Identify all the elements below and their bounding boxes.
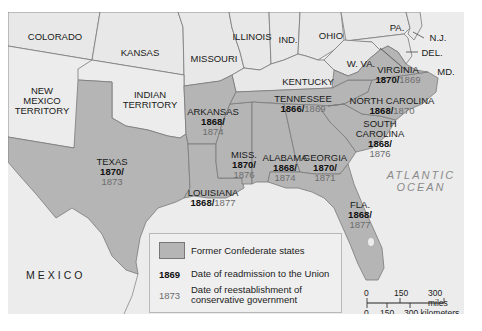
label-new-mexico-territory: NEW MEXICO TERRITORY: [15, 86, 70, 116]
label-north-carolina: NORTH CAROLINA 1868/1870: [350, 96, 435, 116]
label-kansas: KANSAS: [121, 48, 160, 58]
label-west-virginia: W. VA.: [347, 59, 375, 69]
scale-km-300: 300 kilometers: [404, 308, 459, 314]
legend-restoration-key: 1873: [159, 290, 180, 301]
legend-restoration-label: Date of reestablishment of conservative …: [191, 285, 302, 305]
rio-grande-border: [124, 274, 138, 314]
scale-miles-0: 0: [364, 288, 369, 298]
label-atlantic-ocean: ATLANTIC OCEAN: [387, 169, 455, 193]
label-maryland: MD.: [437, 67, 454, 77]
scale-km-0: 0: [364, 308, 369, 314]
label-south-carolina: SOUTH CAROLINA 1868/ 1876: [356, 119, 405, 159]
label-new-jersey: N.J.: [430, 33, 447, 43]
label-illinois: ILLINOIS: [232, 32, 271, 42]
label-florida: FLA. 1868/ 1877: [348, 200, 372, 230]
scale-bar: 0 150 300 miles 0 150 300 kilometers: [364, 288, 464, 314]
scale-miles-150: 150: [394, 288, 408, 298]
label-missouri: MISSOURI: [191, 54, 238, 64]
label-colorado: COLORADO: [28, 32, 82, 42]
label-indian-territory: INDIAN TERRITORY: [123, 90, 178, 110]
lake-okeechobee: [368, 238, 374, 246]
label-pennsylvania: PA.: [390, 23, 405, 33]
label-mexico: MEXICO: [26, 269, 85, 281]
scale-ruler: [364, 298, 464, 308]
label-mississippi: MISS. 1870/ 1876: [231, 150, 257, 180]
confederate-swatch: [159, 242, 185, 259]
label-ohio: OHIO: [319, 31, 343, 41]
label-alabama: ALABAMA 1868/ 1874: [263, 153, 308, 183]
label-indiana: IND.: [279, 35, 298, 45]
label-georgia: GEORGIA 1870/ 1871: [303, 153, 347, 183]
scale-km-150: 150: [380, 308, 394, 314]
legend-confederate-label: Former Confederate states: [191, 246, 305, 256]
label-tennessee: TENNESSEE 1866/1869: [274, 94, 332, 114]
legend-admission-key: 1869: [159, 269, 180, 280]
label-kentucky: KENTUCKY: [282, 77, 334, 87]
label-arkansas: ARKANSAS 1868/ 1874: [187, 107, 239, 137]
label-texas: TEXAS 1870/ 1873: [96, 157, 127, 187]
legend-admission-label: Date of readmission to the Union: [191, 269, 329, 279]
reconstruction-map: COLORADO KANSAS MISSOURI ILLINOIS IND. O…: [8, 12, 464, 314]
label-virginia: VIRGINIA 1870/1869: [376, 65, 421, 85]
label-delaware: DEL.: [421, 48, 442, 58]
map-legend: Former Confederate states 1869 Date of r…: [149, 233, 342, 313]
label-louisiana: LOUISIANA 1868/1877: [188, 188, 239, 208]
